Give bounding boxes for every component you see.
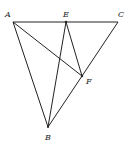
label-F: F [85,77,92,86]
point-B [47,126,49,128]
segment-AF [13,22,82,76]
geometry-diagram: A E C F B [0,0,133,146]
segment-FB [48,76,82,127]
segment-EB [48,22,66,127]
segment-AB [13,22,48,127]
segment-EF [66,22,82,76]
segment-CF [82,22,118,76]
label-C: C [118,10,124,19]
point-E [65,21,67,23]
label-A: A [4,10,11,19]
point-F [81,75,83,77]
label-E: E [62,10,69,19]
label-B: B [44,133,51,142]
